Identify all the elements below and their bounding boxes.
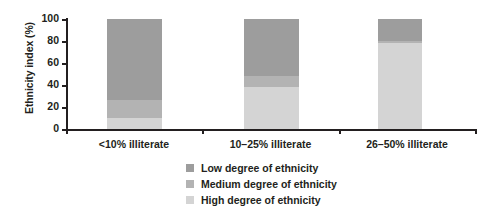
- x-category-label-0: <10% illiterate: [66, 138, 202, 150]
- bar-segment-low: [107, 19, 162, 100]
- x-category-label-1: 10–25% illiterate: [202, 138, 339, 150]
- y-tick-label-80: 80: [29, 34, 59, 46]
- bar-segment-high: [107, 118, 162, 129]
- bar-segment-low: [378, 19, 422, 41]
- bar-segment-high: [244, 87, 299, 129]
- bar-segment-low: [244, 19, 299, 76]
- y-tick-label-60: 60: [29, 56, 59, 68]
- bar-segment-medium: [107, 100, 162, 118]
- x-tick-mark-1: [202, 129, 204, 134]
- y-tick-mark: [62, 107, 66, 109]
- legend-swatch-high-icon: [186, 196, 194, 204]
- y-tick-label-0: 0: [29, 122, 59, 134]
- bar-group-0: [107, 19, 162, 129]
- legend-swatch-medium-icon: [186, 180, 194, 188]
- y-axis-line: [66, 18, 68, 130]
- chart-legend: Low degree of ethnicity Medium degree of…: [186, 160, 486, 208]
- legend-swatch-low-icon: [186, 164, 194, 172]
- bar-group-2: [378, 19, 422, 129]
- y-tick-label-40: 40: [29, 78, 59, 90]
- y-tick-mark: [62, 63, 66, 65]
- y-tick-mark: [62, 85, 66, 87]
- plot-area: 0 20 40 60 80 100: [66, 19, 476, 129]
- x-tick-mark-start: [66, 129, 68, 134]
- legend-item-high: High degree of ethnicity: [186, 192, 486, 208]
- legend-item-low: Low degree of ethnicity: [186, 160, 486, 176]
- legend-label-medium: Medium degree of ethnicity: [201, 179, 337, 190]
- legend-label-low: Low degree of ethnicity: [201, 163, 318, 174]
- x-tick-mark-2: [339, 129, 341, 134]
- y-tick-label-100: 100: [29, 12, 59, 24]
- x-tick-mark-end: [475, 129, 477, 134]
- y-tick-mark: [62, 41, 66, 43]
- y-tick-mark: [62, 19, 66, 21]
- legend-item-medium: Medium degree of ethnicity: [186, 176, 486, 192]
- stacked-bar-chart: Ethnicity index (%) 0 20 40 60 80 100: [0, 0, 487, 219]
- y-tick-label-20: 20: [29, 100, 59, 112]
- x-axis-line: [66, 129, 477, 131]
- bar-group-1: [244, 19, 299, 129]
- x-category-label-2: 26–50% illiterate: [339, 138, 475, 150]
- bar-segment-high: [378, 43, 422, 129]
- bar-segment-medium: [244, 76, 299, 87]
- legend-label-high: High degree of ethnicity: [201, 195, 321, 206]
